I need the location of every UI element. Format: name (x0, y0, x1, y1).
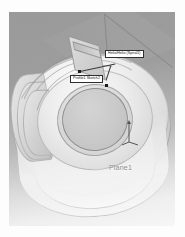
screenshot-root: Plane1 Helix/Helix (Spiral1) Profile1 Sk… (0, 0, 185, 237)
callout-helix-spiral1[interactable]: Helix/Helix (Spiral1) (105, 50, 144, 58)
callout-anchor-point (78, 70, 81, 73)
callout-profile1-sketch2[interactable]: Profile1 Sketch2 (70, 75, 103, 83)
callout-anchor-point (105, 84, 108, 87)
origin-axis-triad (121, 120, 143, 146)
cad-3d-viewport[interactable]: Plane1 (9, 12, 175, 226)
spiral-solid-body[interactable] (9, 12, 175, 226)
plane1-label: Plane1 (109, 164, 132, 171)
viewport-canvas[interactable]: Plane1 (9, 12, 175, 226)
